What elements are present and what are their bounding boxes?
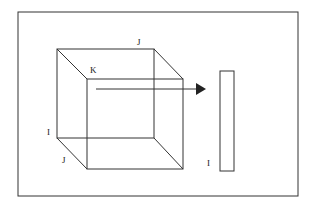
cube-edge-top-left: [57, 49, 87, 79]
cube: [57, 49, 183, 169]
cube-edge-bottom-right: [154, 138, 183, 169]
label-slice: I: [207, 158, 210, 168]
slice-rectangle: [220, 71, 234, 171]
label-bottom-depth-edge: J: [62, 155, 66, 165]
cube-back-face: [57, 49, 154, 138]
outer-frame: [18, 12, 298, 196]
cube-front-face: [87, 79, 183, 169]
arrow: [96, 83, 206, 95]
label-left-edge: I: [47, 127, 50, 137]
diagram-canvas: J K I J I: [0, 0, 313, 205]
cube-edge-top-right: [154, 49, 183, 79]
label-depth-edge: K: [90, 65, 97, 75]
arrow-head-icon: [196, 83, 206, 95]
label-top-edge: J: [137, 37, 141, 47]
